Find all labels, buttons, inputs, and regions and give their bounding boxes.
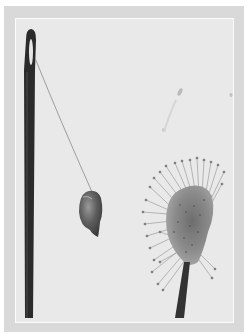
background-smudges [162,88,233,132]
needle [24,29,36,318]
photo-scene [0,0,247,336]
thread [35,58,92,192]
hanging-object [79,191,102,237]
